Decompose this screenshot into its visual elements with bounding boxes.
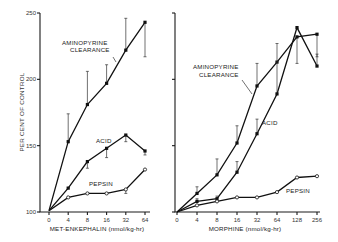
data-point-filled	[255, 84, 258, 87]
left-x-axis-label: MET-ENKEPHALIN (nmol/kg-hr)	[50, 225, 144, 232]
series-line	[177, 28, 317, 212]
data-point-filled	[195, 200, 198, 203]
left-y-ticks: 100150200250	[26, 10, 40, 215]
x-tick-label: 128	[292, 217, 303, 223]
data-point-open	[86, 192, 89, 195]
data-point-filled	[143, 149, 146, 152]
x-tick-label: 0	[47, 217, 51, 223]
data-point-open	[275, 191, 278, 194]
x-tick-label: 32	[122, 217, 129, 223]
right-aminopyrine-pointer	[242, 80, 252, 94]
data-point-open	[295, 176, 298, 179]
data-point-filled	[235, 171, 238, 174]
data-point-filled	[295, 26, 298, 29]
data-point-filled	[235, 141, 238, 144]
data-point-filled	[143, 21, 146, 24]
x-tick-label: 4	[195, 217, 199, 223]
data-point-filled	[124, 49, 127, 52]
data-point-filled	[315, 64, 318, 67]
left-aminopyrine-pointer	[113, 57, 116, 62]
series-line	[49, 135, 145, 211]
data-point-filled	[315, 33, 318, 36]
data-point-filled	[275, 92, 278, 95]
x-tick-label: 16	[234, 217, 241, 223]
data-point-open	[215, 200, 218, 203]
right-acid-label: ACID	[262, 119, 278, 126]
chart-figure: 100150200250 048163264 PER CENT OF CONTR…	[0, 0, 338, 242]
y-tick-label: 100	[26, 209, 37, 215]
x-tick-label: 32	[254, 217, 261, 223]
x-tick-label: 8	[86, 217, 90, 223]
x-tick-label: 64	[274, 217, 281, 223]
x-tick-label: 256	[312, 217, 323, 223]
right-panel: 048163264128256 MORPHINE (nmol/kg-hr) AM…	[172, 13, 323, 232]
right-aminopyrine-label-line2: CLEARANCE	[199, 71, 239, 78]
data-point-open	[124, 188, 127, 191]
data-point-filled	[215, 173, 218, 176]
y-tick-label: 150	[26, 143, 37, 149]
left-panel: 100150200250 048163264 PER CENT OF CONTR…	[18, 10, 150, 232]
y-tick-label: 250	[26, 10, 37, 16]
x-tick-label: 0	[175, 217, 179, 223]
data-point-filled	[295, 35, 298, 38]
data-point-filled	[105, 147, 108, 150]
data-point-open	[195, 204, 198, 207]
y-tick-label: 200	[26, 76, 37, 82]
data-point-filled	[255, 132, 258, 135]
data-point-open	[235, 196, 238, 199]
right-series	[177, 26, 319, 212]
x-tick-label: 16	[103, 217, 110, 223]
right-aminopyrine-label-line1: AMINOPYRINE	[193, 63, 239, 70]
data-point-filled	[195, 192, 198, 195]
data-point-filled	[86, 160, 89, 163]
left-pepsin-label: PEPSIN	[89, 180, 113, 187]
data-point-filled	[105, 82, 108, 85]
data-point-filled	[86, 103, 89, 106]
x-tick-label: 64	[142, 217, 149, 223]
data-point-filled	[67, 140, 70, 143]
data-point-filled	[67, 187, 70, 190]
series-line	[49, 170, 145, 211]
x-tick-label: 4	[67, 217, 71, 223]
right-x-axis-label: MORPHINE (nmol/kg-hr)	[209, 225, 282, 232]
data-point-filled	[124, 133, 127, 136]
data-point-open	[143, 168, 146, 171]
left-aminopyrine-label-line1: AMINOPYRINE	[62, 39, 108, 46]
data-point-open	[315, 175, 318, 178]
data-point-open	[67, 196, 70, 199]
x-tick-label: 8	[215, 217, 219, 223]
left-x-ticks: 048163264	[47, 212, 149, 223]
data-point-open	[105, 192, 108, 195]
y-axis-label: PER CENT OF CONTROL	[18, 72, 25, 151]
data-point-open	[255, 196, 258, 199]
left-acid-label: ACID	[96, 137, 112, 144]
right-x-ticks: 048163264128256	[175, 212, 322, 223]
left-aminopyrine-label-line2: CLEARANCE	[70, 46, 110, 53]
series-line	[177, 34, 317, 212]
right-pepsin-label: PEPSIN	[286, 187, 310, 194]
